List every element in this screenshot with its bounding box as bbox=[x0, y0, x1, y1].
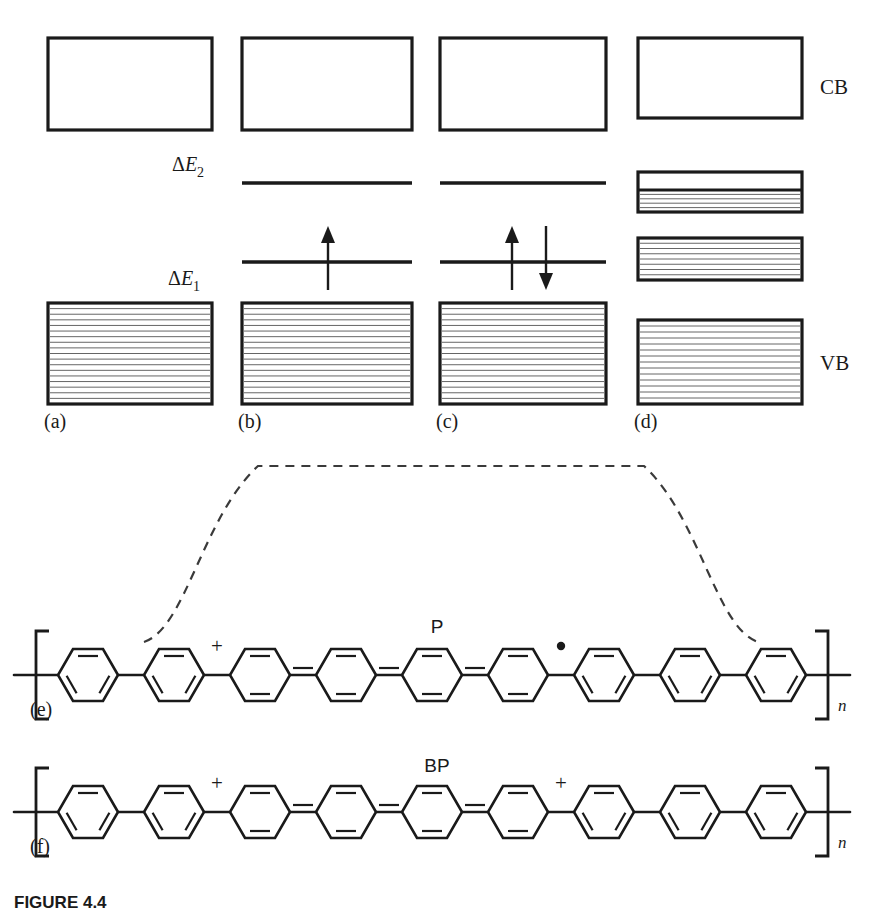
benzene-ring bbox=[58, 786, 118, 838]
spin-down-arrow-c bbox=[539, 226, 553, 290]
polymer-chain-e: n+ bbox=[14, 631, 850, 719]
band-box-valence-band-b bbox=[242, 303, 412, 404]
band-diagram bbox=[48, 38, 802, 404]
band-panel-a bbox=[48, 38, 212, 404]
benzene-ring bbox=[230, 649, 290, 701]
delta-e1-label: ΔE1 bbox=[168, 267, 200, 294]
panel-label-c: (c) bbox=[436, 410, 458, 433]
box-outline bbox=[440, 303, 606, 404]
inter-ring-bond bbox=[290, 668, 316, 675]
band-box-valence-band-a bbox=[48, 303, 212, 404]
benzene-ring bbox=[402, 786, 462, 838]
band-box-valence-band-d bbox=[638, 320, 802, 404]
repeat-unit-label: n bbox=[838, 696, 847, 715]
valence-band-label: VB bbox=[820, 351, 849, 375]
arrow-head bbox=[505, 226, 519, 243]
band-box-upper-bipolaron-band-d bbox=[638, 172, 802, 212]
box-outline bbox=[638, 172, 802, 212]
positive-charge-right: + bbox=[555, 771, 567, 795]
benzene-ring bbox=[574, 786, 634, 838]
polymer-chain-f: n++ bbox=[14, 768, 850, 856]
band-panel-b bbox=[242, 38, 412, 404]
delta-e2-symbol: E bbox=[184, 153, 197, 175]
delta-e1-subscript: 1 bbox=[193, 279, 200, 294]
benzene-ring bbox=[402, 649, 462, 701]
inter-ring-bond bbox=[376, 805, 402, 812]
box-outline bbox=[440, 38, 606, 130]
figure-root: n+n++ CB VB ΔE2 ΔE1 (a) (b) (c) (d) (e) … bbox=[0, 0, 893, 913]
box-outline bbox=[48, 38, 212, 130]
figure-caption: FIGURE 4.4 bbox=[14, 893, 107, 912]
panel-label-d: (d) bbox=[634, 410, 657, 433]
defect-envelope bbox=[144, 466, 758, 642]
inter-ring-bond bbox=[462, 805, 488, 812]
benzene-ring bbox=[488, 649, 548, 701]
band-box-conduction-band-d bbox=[638, 38, 802, 118]
envelope-path bbox=[144, 466, 758, 642]
box-outline bbox=[638, 238, 802, 280]
benzene-ring bbox=[316, 786, 376, 838]
inter-ring-bond bbox=[290, 805, 316, 812]
positive-charge: + bbox=[211, 634, 223, 658]
band-panel-c bbox=[440, 38, 606, 404]
delta-e2-delta: Δ bbox=[172, 153, 185, 175]
box-outline bbox=[638, 320, 802, 404]
figure-canvas: n+n++ CB VB ΔE2 ΔE1 (a) (b) (c) (d) (e) … bbox=[0, 0, 893, 913]
benzene-ring bbox=[574, 649, 634, 701]
chain-diagram: n+n++ bbox=[14, 631, 850, 856]
arrow-head bbox=[539, 273, 553, 290]
band-box-valence-band-c bbox=[440, 303, 606, 404]
panel-label-e: (e) bbox=[30, 698, 52, 721]
band-panel-d bbox=[638, 38, 802, 404]
benzene-ring bbox=[660, 649, 720, 701]
band-box-conduction-band-b bbox=[242, 38, 412, 130]
panel-label-a: (a) bbox=[44, 410, 66, 433]
band-box-conduction-band-a bbox=[48, 38, 212, 130]
delta-e1-delta: Δ bbox=[168, 267, 181, 289]
box-outline bbox=[638, 38, 802, 118]
positive-charge-left: + bbox=[211, 771, 223, 795]
box-outline bbox=[242, 38, 412, 130]
benzene-ring bbox=[660, 786, 720, 838]
conduction-band-label: CB bbox=[820, 75, 848, 99]
delta-e2-subscript: 2 bbox=[197, 165, 204, 180]
delta-e2-label: ΔE2 bbox=[172, 153, 204, 180]
radical-dot bbox=[557, 642, 565, 650]
repeat-unit-label: n bbox=[838, 833, 847, 852]
delta-e1-symbol: E bbox=[180, 267, 193, 289]
spin-up-arrow-c bbox=[505, 226, 519, 290]
box-outline bbox=[48, 303, 212, 404]
inter-ring-bond bbox=[462, 668, 488, 675]
band-box-conduction-band-c bbox=[440, 38, 606, 130]
benzene-ring bbox=[746, 786, 806, 838]
species-label-bipolaron: BP bbox=[424, 755, 449, 776]
benzene-ring bbox=[230, 786, 290, 838]
benzene-ring bbox=[58, 649, 118, 701]
arrow-head bbox=[321, 226, 335, 243]
box-outline bbox=[242, 303, 412, 404]
inter-ring-bond bbox=[376, 668, 402, 675]
band-box-lower-bipolaron-band-d bbox=[638, 238, 802, 280]
benzene-ring bbox=[144, 649, 204, 701]
panel-label-f: (f) bbox=[30, 835, 50, 858]
benzene-ring bbox=[746, 649, 806, 701]
panel-label-b: (b) bbox=[238, 410, 261, 433]
benzene-ring bbox=[144, 786, 204, 838]
benzene-ring bbox=[316, 649, 376, 701]
spin-up-arrow-b bbox=[321, 226, 335, 290]
species-label-polaron: P bbox=[431, 616, 444, 637]
benzene-ring bbox=[488, 786, 548, 838]
